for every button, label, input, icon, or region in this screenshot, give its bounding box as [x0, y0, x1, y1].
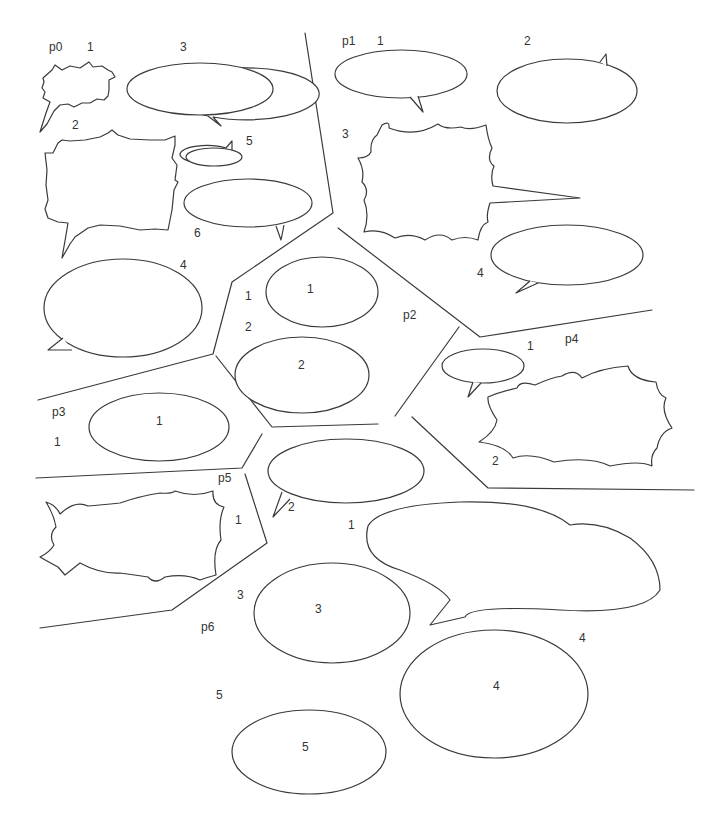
- panel-label-p4: p4: [565, 333, 578, 345]
- scalloped-bubble-p1-3: [358, 123, 580, 240]
- panel-label-p6: p6: [201, 621, 214, 633]
- bubble-order-p0-4: 4: [180, 259, 187, 271]
- bubble-order-p1-1: 1: [377, 35, 384, 47]
- bubble-order-p0-1: 1: [87, 41, 94, 53]
- ellipse-bubble-p0-6: [184, 179, 312, 227]
- bubble-order-p2-2: 2: [245, 321, 252, 333]
- bubble-order-p0-2: 2: [72, 119, 79, 131]
- panel-p1: [335, 50, 643, 293]
- tail-p1-1: [410, 96, 423, 112]
- bubble-order-p3-1: 1: [54, 436, 61, 448]
- panel-label-p0: p0: [49, 41, 62, 53]
- bubble-order-p0-5: 5: [246, 135, 253, 147]
- tail-p1-4: [516, 281, 538, 293]
- bubble-order-p6-4: 4: [579, 632, 586, 644]
- ellipse-bubble-p2-1: [266, 257, 378, 327]
- double-ellipse-bubble-p6-1: [367, 502, 660, 625]
- bubble-inner-p6-5: 5: [302, 741, 309, 753]
- panel-p5: [40, 439, 424, 581]
- bubble-order-p0-6: 6: [194, 227, 201, 239]
- tail-p4-1: [468, 382, 481, 397]
- panel-p4: [442, 349, 672, 466]
- bubble-inner-p3-1: 1: [156, 415, 163, 427]
- ellipse-bubble-p1-1: [335, 50, 467, 98]
- panel-p2: [235, 257, 378, 413]
- bubble-order-p2-1: 1: [245, 290, 252, 302]
- tail-p0-6: [276, 225, 284, 240]
- ellipse-bubble-p6-5: [232, 710, 386, 794]
- ellipse-bubble-p6-4: [400, 630, 588, 758]
- bubble-order-p0-3: 3: [180, 41, 187, 53]
- bubble-order-p6-5: 5: [216, 689, 223, 701]
- scalloped-bubble-p5-1: [40, 491, 224, 581]
- bubble-inner-p2-1: 1: [307, 283, 314, 295]
- ellipse-bubble-p5-2: [268, 439, 424, 503]
- panel-p6: [232, 502, 660, 794]
- bubble-order-p6-1: 1: [348, 519, 355, 531]
- panel-label-p3: p3: [52, 406, 65, 418]
- bubble-inner-p6-3: 3: [315, 603, 322, 615]
- bubble-inner-p2-2: 2: [298, 359, 305, 371]
- bubble-order-p4-2: 2: [492, 455, 499, 467]
- panel-label-p2: p2: [403, 309, 416, 321]
- spiky-bubble-p4-2: [479, 366, 672, 466]
- spiky-bubble-p0-2: [45, 130, 178, 258]
- manga-page-diagram: [0, 0, 709, 830]
- bubble-order-p1-4: 4: [477, 267, 484, 279]
- ellipse-bubble-p0-4: [44, 259, 202, 357]
- panel-label-p5: p5: [218, 472, 231, 484]
- ellipse-bubble-p4-1: [442, 349, 524, 383]
- bubble-order-p5-1: 1: [235, 514, 242, 526]
- bubble-order-p4-1: 1: [527, 340, 534, 352]
- ellipse-bubble-p0-5-body: [186, 148, 242, 166]
- ellipse-bubble-p1-2: [497, 59, 637, 123]
- bubble-order-p1-2: 2: [524, 35, 531, 47]
- ellipse-bubble-p0-3-body: [127, 63, 273, 115]
- ellipse-bubble-p6-3: [254, 563, 410, 663]
- bubble-order-p1-3: 3: [342, 128, 349, 140]
- bubble-inner-p6-4: 4: [493, 680, 500, 692]
- bubble-order-p5-2: 2: [288, 501, 295, 513]
- ellipse-bubble-p2-2: [235, 337, 369, 413]
- bubble-order-p6-3: 3: [237, 589, 244, 601]
- panel-label-p1: p1: [342, 35, 355, 47]
- ellipse-bubble-p1-4: [491, 225, 643, 285]
